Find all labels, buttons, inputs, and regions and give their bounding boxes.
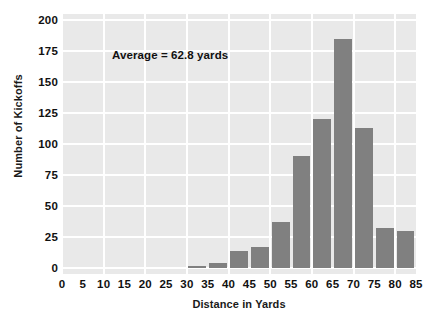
y-tick-label: 150 (2, 76, 58, 88)
histogram-bar (376, 228, 394, 268)
y-tick-label: 25 (2, 231, 58, 243)
histogram-bar (334, 39, 352, 268)
y-tick-label: 100 (2, 138, 58, 150)
plot-area: Average = 62.8 yards (62, 14, 416, 274)
histogram-bar (293, 156, 311, 268)
x-tick-label: 0 (59, 278, 66, 290)
x-tick-label: 35 (201, 278, 214, 290)
x-tick-label: 15 (118, 278, 131, 290)
histogram-bar (313, 119, 331, 268)
average-annotation: Average = 62.8 yards (112, 49, 228, 61)
histogram-bar (272, 222, 290, 268)
y-tick-label: 50 (2, 200, 58, 212)
x-tick-label: 55 (284, 278, 297, 290)
histogram-bar (230, 251, 248, 268)
histogram-bar (397, 231, 415, 268)
y-tick-label: 125 (2, 107, 58, 119)
x-axis-tick-labels: 0510152025303540455055606570758085 (62, 278, 416, 294)
histogram-bar (188, 266, 206, 268)
x-tick-label: 20 (139, 278, 152, 290)
x-tick-label: 10 (97, 278, 110, 290)
histogram-bar (355, 128, 373, 268)
x-tick-label: 75 (368, 278, 381, 290)
x-axis-title: Distance in Yards (62, 298, 416, 310)
y-tick-label: 175 (2, 45, 58, 57)
histogram-figure: Number of Kickoffs 025507510012515017520… (0, 0, 432, 327)
x-tick-label: 40 (222, 278, 235, 290)
x-tick-label: 65 (326, 278, 339, 290)
x-tick-label: 45 (243, 278, 256, 290)
histogram-bar (209, 263, 227, 268)
histogram-bar (251, 247, 269, 268)
y-tick-label: 75 (2, 169, 58, 181)
x-tick-label: 80 (389, 278, 402, 290)
x-tick-label: 70 (347, 278, 360, 290)
y-tick-label: 200 (2, 14, 58, 26)
y-tick-label: 0 (2, 262, 58, 274)
x-tick-label: 85 (409, 278, 422, 290)
x-tick-label: 50 (264, 278, 277, 290)
x-tick-label: 25 (160, 278, 173, 290)
x-tick-label: 5 (80, 278, 87, 290)
x-tick-label: 60 (305, 278, 318, 290)
x-tick-label: 30 (180, 278, 193, 290)
y-axis-tick-labels: 0255075100125150175200 (0, 0, 58, 327)
